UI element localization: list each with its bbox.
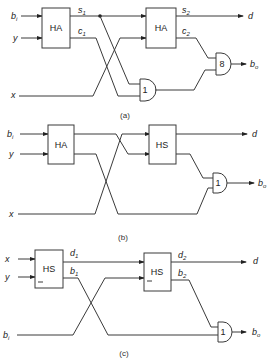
input-x-label: x: [10, 90, 16, 100]
c2-label: c2: [182, 26, 191, 37]
d2-label: d2: [178, 250, 187, 261]
half-subtractor-label: HS: [156, 140, 169, 150]
panel-a: bi y x HA s1 c1 HA s2 c2 d 1: [10, 5, 259, 120]
c1-label: c1: [78, 26, 86, 37]
wire-ha-sum: [74, 134, 150, 154]
caption-b: (b): [118, 233, 128, 242]
output-b0-label: bo: [252, 327, 261, 338]
wire-hs-borrow: [176, 154, 213, 178]
half-adder-1-label: HA: [50, 23, 63, 33]
output-d-label: d: [253, 256, 259, 266]
wire-c1: [70, 38, 140, 96]
input-y-label: y: [4, 272, 10, 282]
input-b-label: bi: [3, 330, 10, 341]
output-d-label: d: [248, 11, 254, 21]
wire-x: [19, 38, 146, 96]
b1-label: b1: [70, 266, 78, 277]
gate-1-label: 1: [220, 327, 225, 337]
b2-label: b2: [178, 268, 187, 279]
gate-1-label: 1: [215, 178, 220, 188]
half-adder-label: HA: [55, 140, 68, 150]
input-x-label: x: [8, 209, 14, 219]
output-b0-label: bo: [258, 178, 267, 189]
wire-b2: [171, 280, 218, 327]
input-y-label: y: [12, 33, 18, 43]
wire-c2: [176, 38, 216, 58]
panel-b: bi y x HA HS d 1 bo (b): [7, 125, 267, 242]
input-y-label: y: [8, 149, 14, 159]
wire-b1: [63, 278, 218, 335]
half-subtractor-2-label: HS: [151, 267, 164, 277]
caption-a: (a): [120, 111, 130, 120]
output-d-label: d: [252, 129, 258, 139]
input-x-label: x: [4, 254, 10, 264]
input-b-label: bi: [7, 129, 14, 140]
half-subtractor-1-label: HS: [43, 264, 56, 274]
wire-s1-to-gate1: [100, 16, 140, 84]
gate-1-label: 1: [142, 85, 147, 95]
caption-c: (c): [119, 349, 129, 358]
input-b-label: bi: [11, 11, 18, 22]
wire-gate1-to-gate2: [194, 70, 216, 90]
wire-x: [18, 134, 150, 214]
d1-label: d1: [70, 248, 78, 259]
s1-label: s1: [78, 5, 86, 16]
panel-c: x y bi HS d1 b1 HS d2 b2 d 1 bo (c): [3, 248, 261, 358]
half-adder-2-label: HA: [155, 23, 168, 33]
wire-ha-carry: [74, 154, 213, 214]
s2-label: s2: [182, 5, 191, 16]
output-b0-label: bo: [250, 59, 259, 70]
gate-2-label: 8: [219, 59, 224, 69]
